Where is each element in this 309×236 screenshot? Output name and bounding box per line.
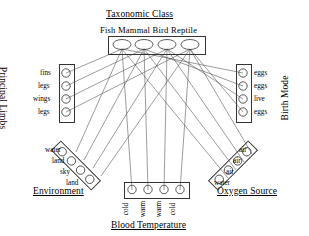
principal-limbs-label-0: fins	[40, 69, 51, 77]
oxygen-source-label-3: water	[214, 179, 230, 187]
oxygen-source-label-2: air	[226, 168, 234, 176]
blood-temperature-label-0: cold	[122, 203, 130, 215]
birth-mode-label-1: eggs	[254, 82, 267, 90]
oxygen-source-label-0: air	[239, 146, 247, 154]
birth-mode-nodes	[236, 64, 250, 121]
taxonomic-class-nodes	[108, 36, 204, 53]
birth-mode-label-2: live	[254, 95, 265, 103]
principal-limbs-label-2: wings	[33, 95, 50, 103]
environment-label-0: water	[45, 146, 61, 154]
blood-temperature-label-3: cold	[169, 203, 177, 215]
environment-label-3: land	[66, 179, 78, 187]
group-title-oxygen-source: Oxygen Source	[217, 186, 277, 196]
group-title-environment: Environment	[33, 186, 84, 196]
group-title-birth-mode: Birth Mode	[280, 75, 290, 120]
blood-temperature-label-1: warm	[139, 201, 147, 217]
birth-mode-label-0: eggs	[254, 69, 267, 77]
blood-temperature-nodes	[124, 182, 188, 197]
blood-temperature-label-2: warm	[155, 201, 163, 217]
group-title-principal-limbs: Principal Limbs	[0, 67, 8, 129]
diagram-canvas: Taxonomic Class Fish Mammal Bird Reptile…	[0, 0, 309, 236]
principal-limbs-label-1: legs	[38, 82, 50, 90]
group-title-blood-temperature: Blood Temperature	[111, 220, 186, 230]
oxygen-source-label-1: air	[233, 157, 241, 165]
environment-label-2: sky	[60, 168, 70, 176]
principal-limbs-nodes	[59, 64, 73, 121]
group-title-taxonomic-class: Taxonomic Class	[106, 9, 173, 19]
environment-label-1: land	[52, 157, 64, 165]
taxonomic-class-node-names: Fish Mammal Bird Reptile	[100, 25, 197, 35]
principal-limbs-label-3: legs	[38, 108, 50, 116]
birth-mode-label-3: eggs	[254, 108, 267, 116]
